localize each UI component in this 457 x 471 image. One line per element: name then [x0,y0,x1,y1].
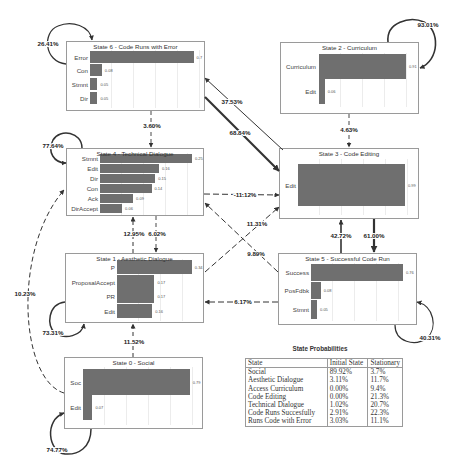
state-5-bar-label: PosFdbk [279,282,309,299]
state-probabilities-table: State Initial State Stationary Social89.… [245,358,403,427]
state-5-bar-label: Stmnt [279,300,309,319]
state-1-bar [117,289,154,303]
state-4-bar-label: Dir [67,174,98,183]
state-4-bar [100,164,159,173]
state-4-bar-label: Con [67,184,98,193]
column-header: State [246,359,328,368]
state-6-bar [90,51,194,63]
state-1-title: State 1 - Aesthetic Dialogue [66,255,203,262]
state-6-bar-value: 0.08 [105,68,113,73]
table-cell: Technical Dialogue [246,401,328,409]
state-3-box: State 3 - Code Editing Edit 0.99 [279,148,419,219]
table-cell: Social [246,368,328,377]
table-cell: 11.7% [368,376,403,384]
state-0-bar-row: 0.07 [83,395,103,420]
state-0-bar-value: 0.79 [193,380,201,385]
state-2-bar [319,54,406,79]
state-5-bar [311,264,403,281]
state-6-bar-value: 0.7 [197,55,203,60]
state-0-bar-row: 0.79 [83,369,200,395]
table-cell: 2.91% [327,409,368,417]
state-3-bar-row: 0.99 [298,164,416,206]
state-5-bar [311,282,321,299]
state-2-bar-label: Curriculum [281,54,316,79]
state-0-bar [83,395,92,420]
edge-label: 4.63% [340,126,358,133]
state-6-bar [90,78,97,90]
edge-label: 6.02% [148,230,166,237]
table-cell: 3.7% [368,368,403,377]
state-4-bar-label: Ack [67,194,98,203]
edge-label: 93.01% [418,21,439,28]
state-4-bar-row: 0.15 [100,174,166,183]
state-4-box: State 4 - Technical Dialogue Stmnt 0.25 … [66,148,204,216]
arrow-state-3-to-state-6 [205,78,283,150]
edge-label: 11.31% [247,220,268,227]
state-1-bar [117,275,154,289]
state-2-bar-row: 0.06 [319,79,336,104]
state-4-bar [100,174,155,183]
edge-label: 73.31% [43,329,64,336]
state-2-bar [319,79,325,104]
state-1-bar-row: 0.17 [117,275,165,289]
edge-label: 12.95% [124,230,145,237]
state-1-bar-label: P [66,260,115,274]
state-1-bar-value: 0.34 [195,265,203,270]
state-6-bar-value: 0.05 [100,96,108,101]
table-cell: 0.00% [327,393,368,401]
state-1-bar-label: PR [66,289,115,303]
edge-label: 77.64% [43,142,64,149]
state-3-bar-label: Edit [280,164,296,206]
table-cell: 20.7% [368,401,403,409]
table-cell: Code Runs Succesfully [246,409,328,417]
state-6-bar-row: 0.7 [90,51,202,63]
arrow-state-6-to-state-3 [205,97,279,171]
state-4-bar-row: 0.14 [100,184,162,193]
edge-label: 61.00% [364,232,385,239]
table-row: Runs Code with Error3.03%11.1% [246,417,403,426]
state-4-bar-label: Edit [67,164,98,173]
state-6-bar-label: Con [67,64,88,76]
edge-label: 3.60% [143,122,161,129]
state-1-bar-value: 0.17 [157,280,165,285]
state-6-bar-row: 0.08 [90,64,113,76]
state-4-bar-label: DirAccept [67,204,98,213]
state-4-bar-value: 0.16 [162,166,170,171]
state-6-bar [90,64,102,76]
state-6-bar-value: 0.05 [100,82,108,87]
state-1-bar-label: Edit [66,304,115,318]
edge-label: 9.89% [247,250,265,257]
table-cell: Runs Code with Error [246,417,328,426]
table-cell: 9.4% [368,385,403,393]
state-5-bar-value: 0.05 [320,307,328,312]
edge-label: 11.52% [124,338,145,345]
state-5-bar-value: 0.76 [406,270,414,275]
table-row: Code Runs Succesfully2.91%22.3% [246,409,403,417]
state-1-bar-value: 0.16 [155,309,163,314]
state-6-bar-label: Error [67,51,88,63]
state-0-bar [83,369,190,395]
state-3-bar-value: 0.99 [408,183,416,188]
state-0-title: State 0 - Social [65,359,202,366]
arrow-state-0-to-state-4 [28,190,64,393]
state-4-bar-row: 0.06 [100,204,133,213]
table-row: Social89.92%3.7% [246,368,403,377]
state-5-bar-row: 0.76 [311,264,414,281]
table-cell: 21.3% [368,393,403,401]
arrow-state-5-to-state-4 [205,203,278,272]
state-6-box: State 6 - Code Runs with Error Error 0.7… [66,41,205,111]
state-0-bar-label: Edit [65,395,81,420]
table-cell: 3.03% [327,417,368,426]
state-1-box: State 1 - Aesthetic Dialogue P 0.34 Prop… [65,253,204,323]
table-row: Code Editing0.00%21.3% [246,393,403,401]
table-cell: 1.02% [327,401,368,409]
edge-label: 42.72% [331,232,352,239]
edge-label: 6.17% [234,298,252,305]
column-header: Stationary [368,359,403,368]
state-5-bar-row: 0.08 [311,282,331,299]
state-4-bar [100,194,133,203]
table-row: Aesthetic Dialogue3.11%11.7% [246,376,403,384]
state-4-bar-value: 0.15 [158,176,166,181]
state-4-bar-row: 0.16 [100,164,170,173]
state-6-bar-row: 0.05 [90,78,108,90]
